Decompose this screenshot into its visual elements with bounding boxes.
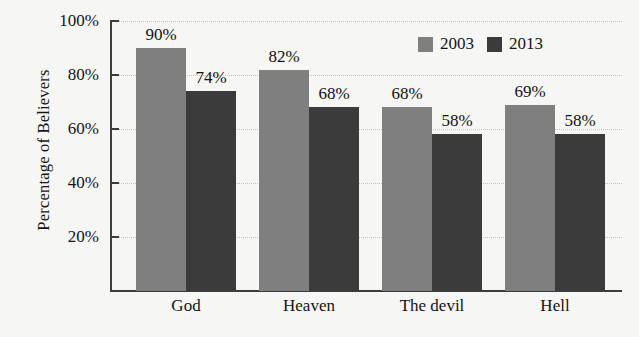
y-tick-label: 20% [33,227,99,247]
y-axis-tick-labels: 100%80%60%40%20% [33,0,99,337]
y-tick-label: 40% [33,173,99,193]
legend-item-2003: 2003 [418,34,474,54]
y-tick-label: 80% [33,65,99,85]
x-axis-tick-labels: GodHeavenThe devilHell [110,0,622,337]
y-tick-label: 100% [33,11,99,31]
x-tick-label-the-devil: The devil [400,296,465,316]
legend-swatch-icon [487,37,502,52]
chart-legend: 20032013 [418,34,543,54]
x-tick-label-hell: Hell [540,296,569,316]
legend-label: 2003 [440,34,474,54]
legend-swatch-icon [418,37,433,52]
bar-chart-figure: Percentage of Believers 100%80%60%40%20%… [0,0,639,337]
legend-label: 2013 [509,34,543,54]
legend-item-2013: 2013 [487,34,543,54]
y-tick-label: 60% [33,119,99,139]
x-tick-label-heaven: Heaven [283,296,335,316]
x-tick-label-god: God [171,296,200,316]
